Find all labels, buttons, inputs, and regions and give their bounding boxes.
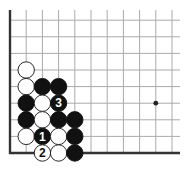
white-stone bbox=[34, 95, 50, 111]
move-number-label: 3 bbox=[55, 96, 62, 110]
white-stone bbox=[34, 112, 50, 128]
black-stone bbox=[50, 112, 66, 128]
go-board: 312 bbox=[0, 0, 190, 170]
black-stone bbox=[18, 95, 34, 111]
black-stone bbox=[18, 112, 34, 128]
grid-lines bbox=[9, 10, 180, 154]
white-stone bbox=[18, 128, 34, 144]
black-stone: 3 bbox=[50, 95, 66, 111]
white-stone: 2 bbox=[34, 145, 50, 161]
white-stone bbox=[18, 62, 34, 78]
black-stone bbox=[67, 112, 83, 128]
black-stone bbox=[67, 128, 83, 144]
white-stone bbox=[50, 128, 66, 144]
star-point-icon bbox=[153, 101, 158, 106]
black-stone bbox=[34, 78, 50, 94]
star-points bbox=[153, 101, 158, 106]
stones: 312 bbox=[18, 62, 83, 161]
white-stone bbox=[50, 145, 66, 161]
white-stone bbox=[18, 78, 34, 94]
move-number-label: 1 bbox=[39, 130, 46, 144]
move-number-label: 2 bbox=[39, 146, 46, 160]
black-stone bbox=[67, 145, 83, 161]
black-stone: 1 bbox=[34, 128, 50, 144]
black-stone bbox=[50, 78, 66, 94]
